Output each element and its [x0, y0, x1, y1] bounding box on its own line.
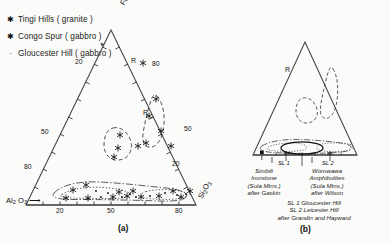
axis-arrow-icon: ⟶ — [29, 196, 40, 205]
tick-right-50: 50 — [184, 125, 192, 132]
field-envelope-b-upper-right — [320, 67, 337, 118]
axis-label-al2o3: Al2 O3 ⟶ — [6, 196, 40, 205]
data-points-a — [63, 60, 192, 201]
tick-bottom-80: 80 — [175, 207, 183, 214]
tick-right-20: 20 — [172, 160, 180, 167]
field-label-r-b: R — [285, 66, 290, 73]
marker-label-sl1: SL 1 — [278, 160, 290, 166]
figure-ternary-diagrams: ✱ Tingi Hills ( granite ) ✱ Congo Spur (… — [0, 0, 390, 242]
tick-left-80: 80 — [24, 163, 32, 170]
field-label-r-upper: R — [131, 57, 136, 64]
tick-right-80: 80 — [152, 60, 160, 67]
caption-a: (a) — [118, 223, 128, 233]
ternary-triangle-a — [26, 30, 196, 205]
tick-bottom-50: 50 — [107, 207, 115, 214]
field-label-r-lower: R — [143, 109, 148, 116]
marker-label-sl2: SL 2 — [322, 160, 334, 166]
axis-ticks-right — [116, 47, 188, 189]
ternary-triangle-b — [253, 42, 357, 166]
caption-b: (b) — [300, 224, 311, 234]
axis-ticks-left — [35, 47, 107, 189]
tick-bottom-20: 20 — [56, 207, 64, 214]
field-envelope-b-central — [296, 98, 317, 123]
marker-simbili — [260, 151, 264, 155]
note-simbili: Simbili Ironstone (Sula Mtns.) after Gas… — [236, 167, 292, 197]
note-key: SL 1 Gloucester Hill SL 2 Leicester Hill… — [250, 199, 378, 221]
tick-left-50: 50 — [41, 128, 49, 135]
tick-left-20: 20 — [75, 58, 83, 65]
note-worowawa: Worowawa Amphibolites (Sula Mtns.) after… — [296, 167, 358, 197]
field-envelope-central — [104, 128, 131, 160]
